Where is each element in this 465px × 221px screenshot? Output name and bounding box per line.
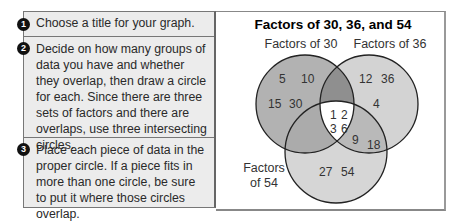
value-15: 15 — [268, 97, 282, 111]
value-2: 2 — [341, 108, 348, 122]
value-5: 5 — [279, 72, 286, 86]
value-6: 6 — [341, 122, 348, 136]
value-27: 27 — [319, 165, 333, 179]
value-36: 36 — [381, 72, 395, 86]
venn-title: Factors of 30, 36, and 54 — [255, 17, 412, 32]
value-4: 4 — [373, 97, 380, 111]
value-3: 3 — [330, 122, 337, 136]
value-18: 18 — [367, 138, 381, 152]
value-9: 9 — [352, 133, 359, 147]
set-c-label-line1: Factors — [243, 161, 285, 175]
value-30: 30 — [289, 97, 303, 111]
value-10: 10 — [301, 72, 315, 86]
set-a-label: Factors of 30 — [265, 37, 338, 51]
set-c-label-line2: of 54 — [250, 176, 278, 190]
set-b-label: Factors of 36 — [354, 37, 427, 51]
venn-diagram: Factors of 30, 36, and 54 Factors of 30 … — [0, 0, 465, 221]
value-1: 1 — [330, 108, 337, 122]
value-54: 54 — [341, 165, 355, 179]
value-12: 12 — [359, 72, 373, 86]
